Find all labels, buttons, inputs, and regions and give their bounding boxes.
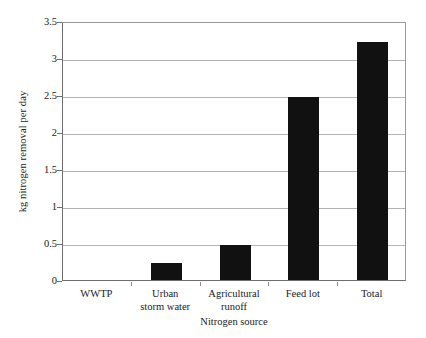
gridline	[63, 208, 405, 209]
y-tick-label: 3	[30, 54, 57, 64]
x-category-label-line: runoff	[188, 301, 280, 314]
gridline	[63, 97, 405, 98]
y-tick-label: 0.5	[30, 239, 57, 249]
plot-area	[62, 22, 406, 281]
y-tick-mark	[57, 170, 62, 171]
bar	[220, 245, 251, 281]
x-category-label-line: Total	[326, 288, 418, 301]
y-tick-mark	[57, 22, 62, 23]
bar-chart: kg nitrogen removal per day 00.511.522.5…	[0, 0, 426, 338]
y-tick-mark	[57, 281, 62, 282]
gridline	[63, 134, 405, 135]
y-tick-mark	[57, 207, 62, 208]
y-tick-label: 1	[30, 202, 57, 212]
x-tick-mark	[268, 282, 269, 286]
y-axis-title: kg nitrogen removal per day	[16, 22, 30, 281]
y-tick-mark	[57, 133, 62, 134]
x-tick-mark	[200, 282, 201, 286]
x-tick-mark	[337, 282, 338, 286]
y-tick-mark	[57, 244, 62, 245]
y-tick-mark	[57, 59, 62, 60]
bar	[288, 97, 319, 281]
y-tick-label: 2.5	[30, 91, 57, 101]
y-tick-label: 2	[30, 128, 57, 138]
x-axis-title: Nitrogen source	[62, 316, 406, 328]
y-tick-mark	[57, 96, 62, 97]
x-category-label: Total	[326, 288, 418, 301]
bar	[357, 42, 388, 280]
y-tick-label: 0	[30, 276, 57, 286]
y-tick-label: 1.5	[30, 165, 57, 175]
gridline	[63, 60, 405, 61]
y-tick-label: 3.5	[30, 17, 57, 27]
bar	[151, 263, 182, 280]
x-tick-mark	[131, 282, 132, 286]
gridline	[63, 171, 405, 172]
